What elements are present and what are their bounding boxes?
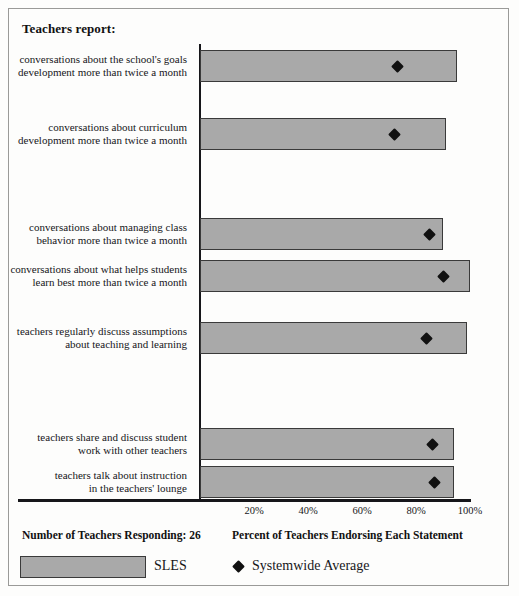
category-label-1-line2: development more than twice a month xyxy=(0,134,187,147)
category-label-0: conversations about the school's goals d… xyxy=(0,53,187,79)
category-label-5: teachers share and discuss student work … xyxy=(0,431,187,457)
chart-page: Teachers report: conversations about the… xyxy=(0,0,519,596)
category-label-1: conversations about curriculum developme… xyxy=(0,121,187,147)
category-label-2: conversations about managing class behav… xyxy=(0,221,187,247)
bar-6 xyxy=(200,466,454,498)
category-label-6-line2: in the teachers' lounge xyxy=(0,482,187,495)
bar-5 xyxy=(200,428,454,460)
x-tick-80pct: 80% xyxy=(394,505,438,516)
category-label-4-line1: teachers regularly discuss assumptions xyxy=(0,325,187,338)
category-label-5-line2: work with other teachers xyxy=(0,444,187,457)
x-tick-100pct: 100% xyxy=(448,505,492,516)
category-label-4-line2: about teaching and learning xyxy=(0,338,187,351)
category-label-2-line2: behavior more than twice a month xyxy=(0,234,187,247)
x-axis-line xyxy=(18,499,471,502)
category-label-0-line1: conversations about the school's goals xyxy=(0,53,187,66)
x-tick-60pct: 60% xyxy=(340,505,384,516)
x-axis-title: Percent of Teachers Endorsing Each State… xyxy=(232,529,463,541)
legend-bar-swatch xyxy=(20,556,146,578)
category-label-3: conversations about what helps students … xyxy=(0,263,187,289)
bar-2 xyxy=(200,218,443,250)
category-label-4: teachers regularly discuss assumptions a… xyxy=(0,325,187,351)
x-tick-40pct: 40% xyxy=(286,505,330,516)
plot-area: conversations about the school's goals d… xyxy=(0,0,519,596)
category-label-1-line1: conversations about curriculum xyxy=(0,121,187,134)
category-label-2-line1: conversations about managing class xyxy=(0,221,187,234)
category-label-6: teachers talk about instruction in the t… xyxy=(0,469,187,495)
bar-1 xyxy=(200,118,446,150)
category-label-3-line1: conversations about what helps students xyxy=(0,263,187,276)
category-label-3-line2: learn best more than twice a month xyxy=(0,276,187,289)
legend-marker-label: Systemwide Average xyxy=(252,558,370,574)
bar-3 xyxy=(200,260,470,292)
x-tick-20pct: 20% xyxy=(232,505,276,516)
category-label-6-line1: teachers talk about instruction xyxy=(0,469,187,482)
bar-0 xyxy=(200,50,457,82)
category-label-5-line1: teachers share and discuss student xyxy=(0,431,187,444)
respondents-count: Number of Teachers Responding: 26 xyxy=(22,529,201,541)
legend-bar-label: SLES xyxy=(154,558,187,574)
category-label-0-line2: development more than twice a month xyxy=(0,66,187,79)
